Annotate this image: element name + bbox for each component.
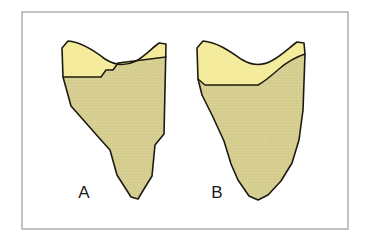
panel-b-label: B (211, 183, 222, 202)
panel-a-label: A (78, 183, 90, 202)
figure-root: A B (0, 0, 369, 243)
anatomical-diagram-svg: A B (0, 0, 369, 243)
